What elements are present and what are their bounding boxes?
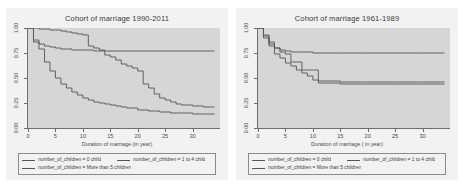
survival-curve bbox=[28, 28, 215, 107]
y-tick-label: 0.25 bbox=[13, 95, 19, 111]
survival-curve bbox=[258, 28, 445, 84]
legend-item-0-child: number_of_children = 0 child bbox=[252, 157, 347, 163]
legend-line-icon bbox=[347, 160, 360, 161]
survival-curve bbox=[258, 28, 445, 82]
chart-title-left: Cohort of marriage 1990-2011 bbox=[6, 14, 228, 23]
x-tick bbox=[368, 129, 369, 132]
x-tick bbox=[55, 129, 56, 132]
y-tick bbox=[24, 28, 27, 29]
x-tick-label: 0 bbox=[19, 133, 37, 139]
y-tick bbox=[254, 53, 257, 54]
y-tick bbox=[24, 128, 27, 129]
x-tick-label: 10 bbox=[304, 133, 322, 139]
chart-panel-left: Cohort of marriage 1990-2011 0.000.250.5… bbox=[6, 8, 228, 180]
y-tick-label: 1.00 bbox=[243, 20, 249, 36]
x-tick-label: 15 bbox=[101, 133, 119, 139]
legend-item-more-than-5-children: number_of_children = More than 5 childre… bbox=[22, 165, 131, 171]
x-axis-title-left: Duration of marriage (in year) bbox=[6, 141, 228, 147]
x-tick bbox=[110, 129, 111, 132]
y-tick-label: 1.00 bbox=[13, 20, 19, 36]
legend-left: number_of_children = 0 child number_of_c… bbox=[18, 153, 216, 175]
legend-row: number_of_children = 0 child number_of_c… bbox=[252, 156, 442, 164]
y-tick bbox=[24, 103, 27, 104]
chart-panel-right: Cohort of marriage 1961-1989 0.000.250.5… bbox=[236, 8, 458, 180]
x-tick bbox=[285, 129, 286, 132]
y-tick-label: 0.75 bbox=[243, 45, 249, 61]
x-tick-label: 25 bbox=[386, 133, 404, 139]
x-tick bbox=[423, 129, 424, 132]
legend-item-1-to-4-child: number_of_children = 1 to 4 child bbox=[117, 157, 212, 163]
x-tick bbox=[395, 129, 396, 132]
x-tick-label: 0 bbox=[249, 133, 267, 139]
legend-line-icon bbox=[117, 160, 130, 161]
x-tick bbox=[83, 129, 84, 132]
x-tick-label: 15 bbox=[331, 133, 349, 139]
plot-area-left bbox=[28, 28, 220, 128]
y-tick-label: 0.50 bbox=[243, 70, 249, 86]
x-tick-label: 30 bbox=[414, 133, 432, 139]
legend-item-0-child: number_of_children = 0 child bbox=[22, 157, 117, 163]
survival-curve bbox=[28, 28, 215, 51]
legend-label: number_of_children = 0 child bbox=[38, 157, 101, 163]
y-axis-right bbox=[257, 28, 258, 129]
legend-label: number_of_children = 0 child bbox=[268, 157, 331, 163]
y-tick bbox=[254, 28, 257, 29]
y-tick bbox=[254, 103, 257, 104]
figure-root: Cohort of marriage 1990-2011 0.000.250.5… bbox=[0, 0, 464, 188]
y-axis-left bbox=[27, 28, 28, 129]
legend-row: number_of_children = More than 5 childre… bbox=[22, 164, 212, 172]
legend-label: number_of_children = 1 to 4 child bbox=[363, 157, 435, 163]
legend-label: number_of_children = More than 5 childre… bbox=[38, 165, 131, 171]
survival-curve bbox=[258, 28, 445, 53]
chart-title-right: Cohort of marriage 1961-1989 bbox=[236, 14, 458, 23]
x-tick bbox=[193, 129, 194, 132]
x-tick-label: 5 bbox=[46, 133, 64, 139]
legend-label: number_of_children = 1 to 4 child bbox=[133, 157, 205, 163]
survival-curves-right bbox=[258, 28, 450, 128]
legend-line-icon bbox=[22, 160, 35, 161]
x-tick bbox=[165, 129, 166, 132]
y-tick-label: 0.50 bbox=[13, 70, 19, 86]
legend-item-more-than-5-children: number_of_children = More than 5 childre… bbox=[252, 165, 361, 171]
legend-right: number_of_children = 0 child number_of_c… bbox=[248, 153, 446, 175]
x-tick bbox=[340, 129, 341, 132]
survival-curve bbox=[28, 28, 215, 114]
x-tick-label: 10 bbox=[74, 133, 92, 139]
legend-item-1-to-4-child: number_of_children = 1 to 4 child bbox=[347, 157, 442, 163]
legend-line-icon bbox=[252, 160, 265, 161]
legend-label: number_of_children = More than 5 childre… bbox=[268, 165, 361, 171]
x-tick-label: 30 bbox=[184, 133, 202, 139]
x-tick-label: 20 bbox=[129, 133, 147, 139]
survival-curves-left bbox=[28, 28, 220, 128]
y-tick-label: 0.25 bbox=[243, 95, 249, 111]
x-tick-label: 20 bbox=[359, 133, 377, 139]
legend-line-icon bbox=[252, 168, 265, 169]
legend-line-icon bbox=[22, 168, 35, 169]
y-tick bbox=[254, 128, 257, 129]
y-tick bbox=[254, 78, 257, 79]
y-tick-label: 0.75 bbox=[13, 45, 19, 61]
y-tick bbox=[24, 78, 27, 79]
y-tick bbox=[24, 53, 27, 54]
x-tick bbox=[28, 129, 29, 132]
x-axis-title-right: Duration of marriage ( in year) bbox=[236, 141, 458, 147]
legend-row: number_of_children = 0 child number_of_c… bbox=[22, 156, 212, 164]
x-tick bbox=[138, 129, 139, 132]
plot-area-right bbox=[258, 28, 450, 128]
x-tick-label: 5 bbox=[276, 133, 294, 139]
x-tick bbox=[258, 129, 259, 132]
legend-row: number_of_children = More than 5 childre… bbox=[252, 164, 442, 172]
x-tick-label: 25 bbox=[156, 133, 174, 139]
x-tick bbox=[313, 129, 314, 132]
